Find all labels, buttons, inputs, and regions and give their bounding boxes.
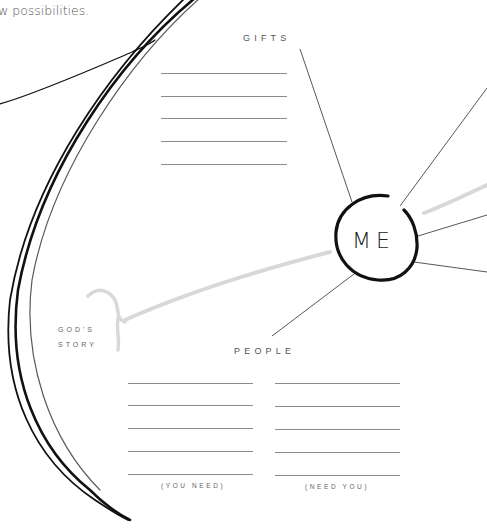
need-you-line[interactable]: [275, 452, 400, 453]
loop-stroke: [0, 0, 200, 520]
you-need-line[interactable]: [128, 474, 253, 475]
connector-lines: [272, 49, 487, 336]
gifts-line[interactable]: [161, 96, 287, 97]
you-need-line[interactable]: [128, 405, 253, 406]
gifts-line[interactable]: [161, 164, 287, 165]
you-need-line[interactable]: [128, 383, 253, 384]
gifts-label: GIFTS: [243, 33, 291, 43]
need-you-line[interactable]: [275, 383, 400, 384]
intro-text: w possibilities.: [0, 3, 89, 18]
people-label: PEOPLE: [234, 346, 295, 356]
gods-story-label: GOD'S STORY: [58, 322, 97, 352]
gifts-line[interactable]: [161, 73, 287, 74]
need-you-line[interactable]: [275, 429, 400, 430]
gods-story-line1: GOD'S: [58, 322, 97, 337]
gods-story-line2: STORY: [58, 337, 97, 352]
need-you-caption: (NEED YOU): [305, 483, 369, 490]
brush-strokes: [88, 185, 487, 350]
you-need-line[interactable]: [128, 451, 253, 452]
you-need-caption: (YOU NEED): [161, 482, 225, 489]
gifts-line[interactable]: [161, 118, 287, 119]
need-you-line[interactable]: [275, 406, 400, 407]
me-label: ME: [352, 228, 395, 253]
need-you-line[interactable]: [275, 475, 400, 476]
you-need-line[interactable]: [128, 428, 253, 429]
gifts-line[interactable]: [161, 141, 287, 142]
